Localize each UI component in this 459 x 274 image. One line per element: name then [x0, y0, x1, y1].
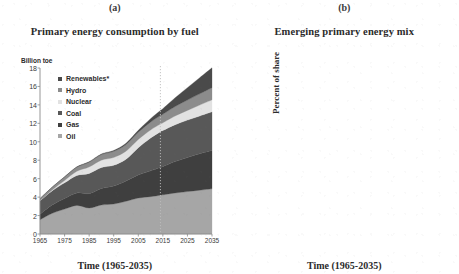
xtick-label: 1985 [82, 237, 96, 244]
xtick-label: 1995 [106, 237, 120, 244]
panel-b: (b) Emerging primary energy mix Percent … [230, 0, 459, 274]
chart-a-plot-area[interactable]: 024681012141618 196519751985199520052015… [40, 68, 212, 234]
ytick-label: 10 [29, 138, 37, 145]
legend-item-gas[interactable]: Gas [58, 119, 109, 131]
panel-a-title: Primary energy consumption by fuel [0, 26, 230, 37]
ytick-label: 14 [29, 101, 37, 108]
xtick-label: 2005 [131, 237, 145, 244]
xtick-label: 1975 [57, 237, 71, 244]
legend-swatch-icon [58, 111, 62, 115]
ytick-label: 6 [33, 175, 37, 182]
ytick-label: 18 [29, 65, 37, 72]
legend-label: Oil [66, 133, 75, 140]
legend-item-hydro[interactable]: Hydro [58, 85, 109, 97]
legend-label: Gas [66, 121, 79, 128]
xtick-label: 1965 [33, 237, 47, 244]
ytick-label: 12 [29, 120, 37, 127]
legend-item-renewables[interactable]: Renewables* [58, 73, 109, 85]
legend-swatch-icon [58, 77, 62, 81]
legend-item-oil[interactable]: Oil [58, 131, 109, 143]
ytick-label: 4 [33, 194, 37, 201]
figure-container: (a) Primary energy consumption by fuel B… [0, 0, 459, 274]
legend-label: Coal [66, 110, 81, 117]
legend-label: Renewables* [66, 75, 109, 82]
legend-swatch-icon [58, 123, 62, 127]
legend-swatch-icon [58, 88, 62, 92]
panel-b-xlabel: Time (1965-2035) [230, 260, 459, 271]
legend-swatch-icon [58, 100, 62, 104]
ytick-label: 16 [29, 83, 37, 90]
ytick-label: 8 [33, 157, 37, 164]
legend-item-coal[interactable]: Coal [58, 108, 109, 120]
legend-swatch-icon [58, 134, 62, 138]
panel-b-ylabel: Percent of share [271, 23, 281, 143]
xtick-label: 2025 [180, 237, 194, 244]
panel-a-xlabel: Time (1965-2035) [0, 260, 230, 271]
panel-b-letter: (b) [230, 2, 459, 13]
chart-a-legend[interactable]: Renewables*HydroNuclearCoalGasOil [58, 73, 109, 142]
panel-a: (a) Primary energy consumption by fuel B… [0, 0, 230, 274]
panel-b-title: Emerging primary energy mix [230, 26, 459, 37]
ytick-label: 2 [33, 212, 37, 219]
legend-item-nuclear[interactable]: Nuclear [58, 96, 109, 108]
panel-a-letter: (a) [0, 2, 230, 13]
legend-label: Hydro [66, 87, 86, 94]
legend-label: Nuclear [66, 98, 92, 105]
xtick-label: 2015 [156, 237, 170, 244]
panel-a-y-unit: Billion toe [21, 57, 52, 64]
xtick-label: 2035 [205, 237, 219, 244]
